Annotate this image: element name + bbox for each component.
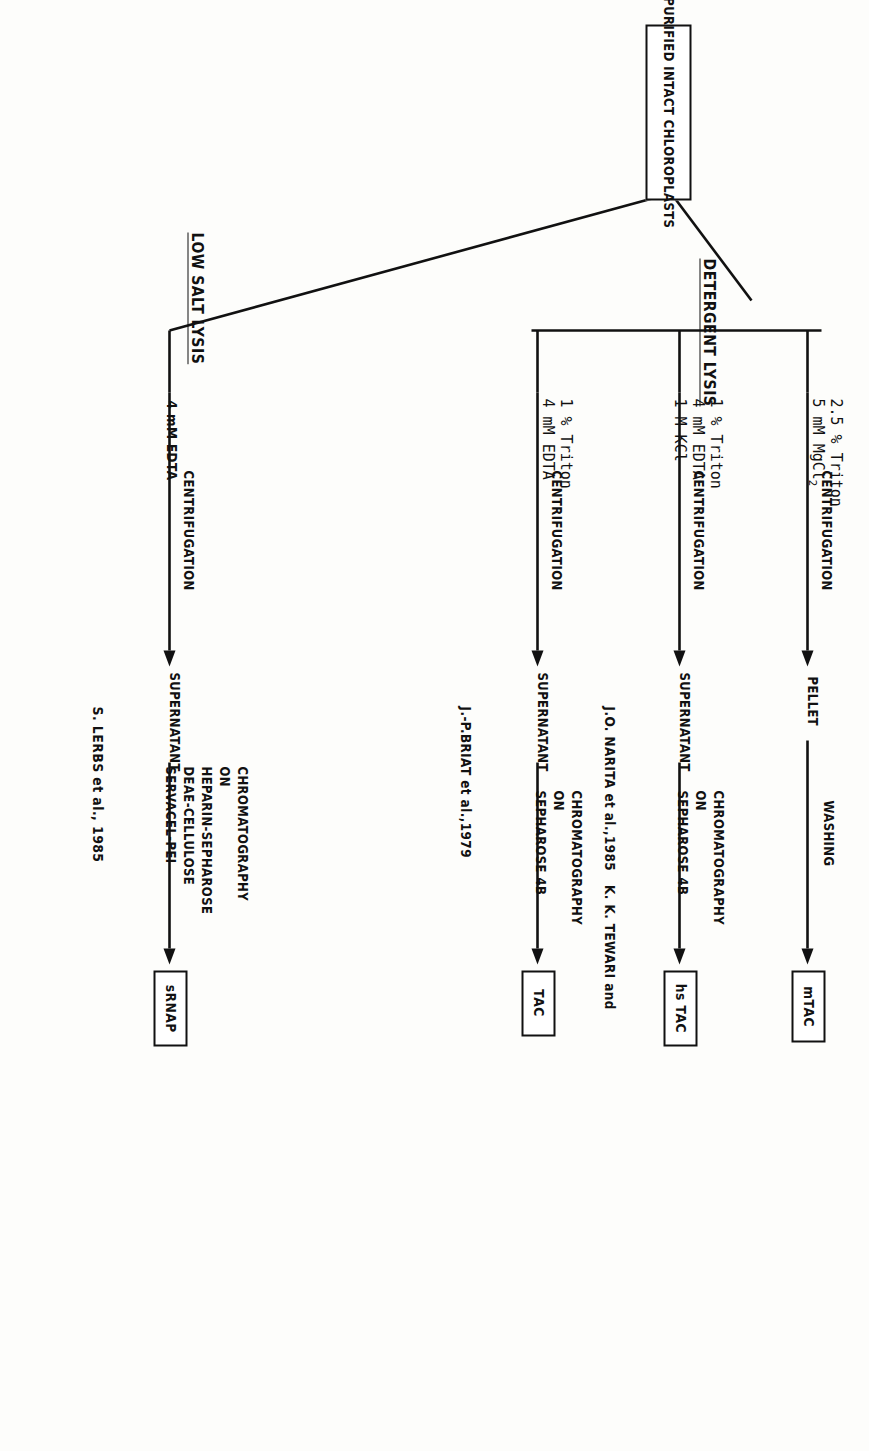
- step-chromatography-tac-line2: ON: [549, 790, 565, 810]
- product-box-srnap: sRNAP: [153, 970, 187, 1046]
- citation-hstac: J.O. NARITA et al.,1985 K. K. TEWARI and: [600, 706, 617, 1009]
- product-label-hstac: hs TAC: [672, 983, 688, 1032]
- product-label-srnap: sRNAP: [162, 984, 178, 1032]
- intermediate-supernatant-srnap: SUPERNATANT: [165, 672, 181, 771]
- product-box-hstac: hs TAC: [663, 970, 697, 1046]
- step-centrifugation-tac: CENTRIFUGATION: [547, 470, 563, 590]
- intermediate-pellet: PELLET: [803, 676, 819, 726]
- step-washing-mtac: WASHING: [819, 800, 835, 866]
- intermediate-supernatant-hstac: SUPERNATANT: [675, 672, 691, 771]
- branch-heading-low-salt: LOW SALT LYSIS: [186, 232, 205, 364]
- source-box: PURIFIED INTACT CHLOROPLASTS: [645, 24, 691, 200]
- branch-heading-detergent: DETERGENT LYSIS: [698, 258, 717, 406]
- source-box-label: PURIFIED INTACT CHLOROPLASTS: [660, 0, 676, 228]
- reagents-srnap-line1: 4 mM EDTA: [162, 400, 179, 480]
- step-chromatography-srnap-line4: DEAE-CELLULOSE: [179, 766, 195, 885]
- step-chromatography-tac-line1: CHROMATOGRAPHY: [567, 790, 583, 925]
- step-chromatography-srnap-line2: ON: [215, 766, 231, 786]
- step-chromatography-srnap-line1: CHROMATOGRAPHY: [233, 766, 249, 901]
- step-chromatography-hstac-line3: SEPHAROSE 4B: [673, 790, 689, 895]
- step-chromatography-tac-line3: SEPHAROSE 4B: [531, 790, 547, 895]
- product-box-tac: TAC: [521, 970, 555, 1036]
- reagents-hstac-line3: 1 M KCl: [669, 398, 687, 461]
- citation-srnap: S. LERBS et al., 1985: [88, 706, 105, 862]
- product-box-mtac: mTAC: [791, 970, 825, 1042]
- intermediate-supernatant-tac: SUPERNATANT: [533, 672, 549, 771]
- step-chromatography-hstac-line1: CHROMATOGRAPHY: [709, 790, 725, 925]
- step-chromatography-hstac-line2: ON: [691, 790, 707, 810]
- reagents-tac-line2: 4 mM EDTA: [537, 398, 555, 479]
- step-chromatography-srnap-line5: SERVACEL-PEI: [161, 766, 177, 863]
- figure-canvas: PURIFIED INTACT CHLOROPLASTS DETERGENT L…: [0, 0, 869, 1451]
- step-chromatography-srnap-line3: HEPARIN-SEPHAROSE: [197, 766, 213, 914]
- product-label-mtac: mTAC: [800, 986, 816, 1027]
- connector-lines: [0, 0, 869, 1451]
- product-label-tac: TAC: [530, 989, 546, 1016]
- step-centrifugation-srnap: CENTRIFUGATION: [179, 470, 195, 590]
- reagents-hstac-line2: 4 mM EDTA: [687, 398, 705, 479]
- step-centrifugation-hstac: CENTRIFUGATION: [689, 470, 705, 590]
- reagents-hstac-line1: 1 % Triton: [705, 398, 723, 488]
- step-centrifugation-mtac: CENTRIFUGATION: [817, 470, 833, 590]
- citation-tac: J.-P.BRIAT et al.,1979: [456, 706, 473, 857]
